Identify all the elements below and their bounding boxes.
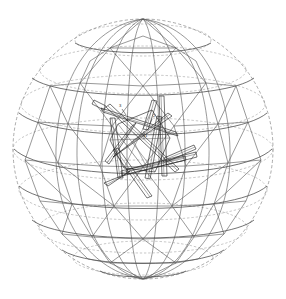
figure-root: 3 2 1 xyxy=(0,0,286,299)
figure-background xyxy=(0,0,286,299)
geodesic-sphere-figure: 3 2 1 xyxy=(0,0,286,299)
